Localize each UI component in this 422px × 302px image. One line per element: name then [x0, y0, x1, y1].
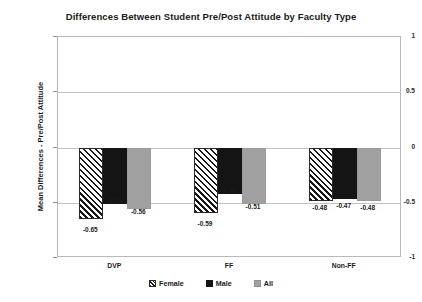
- legend-swatch-all-icon: [254, 280, 261, 287]
- bar-data-label: -0.51: [102, 197, 126, 204]
- bar-non-ff-all: [357, 148, 381, 201]
- chart-container: Differences Between Student Pre/Post Att…: [0, 0, 422, 302]
- plot-area: [57, 36, 401, 257]
- legend-label: All: [264, 279, 273, 288]
- legend-item-all[interactable]: All: [254, 279, 273, 288]
- bar-dvp-female: [79, 148, 103, 220]
- legend-item-male[interactable]: Male: [206, 279, 232, 288]
- chart-legend: FemaleMaleAll: [0, 279, 422, 288]
- bar-non-ff-female: [309, 148, 333, 201]
- legend-swatch-female-icon: [149, 280, 156, 287]
- x-axis-label-ff: FF: [199, 262, 259, 269]
- bar-data-label: -0.42: [217, 187, 241, 194]
- bar-data-label: -0.48: [356, 204, 380, 211]
- bar-data-label: -0.59: [193, 220, 217, 227]
- bar-ff-all: [242, 148, 266, 204]
- bar-data-label: -0.48: [308, 204, 332, 211]
- x-axis-label-dvp: DVP: [84, 262, 144, 269]
- bar-data-label: -0.56: [126, 208, 150, 215]
- bar-dvp-all: [127, 148, 151, 210]
- y-axis-title: Mean Differences - Pre/Post Attitude: [36, 47, 45, 247]
- legend-swatch-male-icon: [206, 280, 213, 287]
- y-axis-tick-mark: [53, 257, 57, 258]
- chart-title: Differences Between Student Pre/Post Att…: [0, 11, 422, 22]
- legend-label: Male: [216, 279, 232, 288]
- legend-item-female[interactable]: Female: [149, 279, 184, 288]
- bar-ff-female: [194, 148, 218, 213]
- gridline: [58, 92, 400, 93]
- bar-data-label: -0.51: [241, 203, 265, 210]
- legend-label: Female: [159, 279, 184, 288]
- x-axis-label-non-ff: Non-FF: [314, 262, 374, 269]
- bar-dvp-male: [103, 148, 127, 204]
- bar-data-label: -0.47: [332, 202, 356, 209]
- bar-non-ff-male: [333, 148, 357, 200]
- bar-data-label: -0.65: [78, 226, 102, 233]
